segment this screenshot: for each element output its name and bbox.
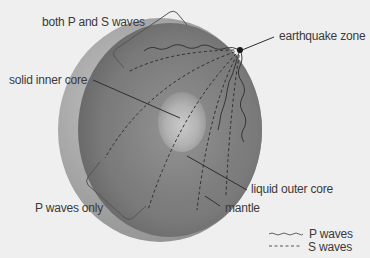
label-mantle: mantle bbox=[225, 201, 260, 215]
label-p-waves-only: P waves only bbox=[35, 201, 103, 215]
inner-core bbox=[158, 92, 206, 152]
legend-s-waves-label: S waves bbox=[308, 240, 352, 254]
label-inner-core: solid inner core bbox=[9, 73, 87, 87]
label-outer-core: liquid outer core bbox=[251, 182, 333, 196]
legend-p-wave-icon bbox=[269, 233, 303, 235]
leader-earthquake-zone bbox=[242, 37, 274, 50]
label-earthquake-zone: earthquake zone bbox=[279, 29, 365, 43]
label-both-waves: both P and S waves bbox=[42, 15, 145, 29]
legend-p-waves-label: P waves bbox=[309, 227, 353, 241]
